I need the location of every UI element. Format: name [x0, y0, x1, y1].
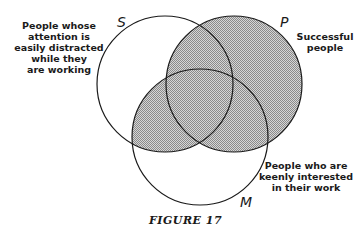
label-m: People who are keenly interested in thei…: [256, 160, 356, 193]
label-s-line: while they: [14, 53, 104, 64]
label-s-line: People whose: [14, 20, 104, 31]
letter-s: S: [117, 14, 126, 30]
label-p: Successful people: [290, 31, 360, 53]
label-s-line: easily distracted: [14, 42, 104, 53]
label-p-line: people: [290, 42, 360, 53]
label-s: People whose attention is easily distrac…: [14, 20, 104, 75]
label-m-line: People who are: [256, 160, 356, 171]
label-s-line: are working: [14, 64, 104, 75]
figure-caption: FIGURE 17: [149, 214, 222, 227]
letter-p: P: [280, 14, 288, 30]
label-m-line: in their work: [256, 182, 356, 193]
label-m-line: keenly interested: [256, 171, 356, 182]
letter-m: M: [240, 194, 252, 210]
label-s-line: attention is: [14, 31, 104, 42]
label-p-line: Successful: [290, 31, 360, 42]
